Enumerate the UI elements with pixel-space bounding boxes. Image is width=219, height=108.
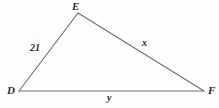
geometry-figure: E D F 21 x y bbox=[0, 0, 219, 108]
side-DE-line bbox=[19, 13, 78, 91]
vertex-label-f: F bbox=[208, 85, 215, 96]
vertex-label-e: E bbox=[72, 1, 79, 12]
side-length-label-ef: x bbox=[142, 38, 147, 48]
vertex-label-d: D bbox=[7, 85, 15, 96]
side-length-label-de: 21 bbox=[30, 43, 40, 53]
side-EF-line bbox=[78, 13, 204, 91]
side-length-label-df: y bbox=[107, 93, 111, 103]
